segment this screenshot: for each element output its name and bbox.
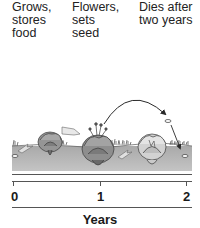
tick-0 xyxy=(13,181,14,186)
growth-arrow-icon xyxy=(62,127,80,135)
caption-line: two years xyxy=(139,14,193,27)
life-cycle-illustration xyxy=(0,80,200,175)
tick-2 xyxy=(186,181,187,186)
axis-title: Years xyxy=(0,212,200,227)
seed-icon xyxy=(182,155,188,158)
seed-dispersal-arc-arrow xyxy=(104,100,165,124)
stage-caption-dies: Dies after two years xyxy=(139,1,193,27)
axis-divider-bottom xyxy=(12,207,192,208)
tick-label-0: 0 xyxy=(11,189,18,204)
axis-line xyxy=(12,181,192,182)
stage-caption-grows: Grows, stores food xyxy=(12,1,52,40)
seed-icon xyxy=(165,120,171,123)
seed-icon xyxy=(12,155,18,158)
axis-divider-top xyxy=(12,174,192,175)
stage-caption-flowers: Flowers, sets seed xyxy=(72,1,119,40)
tick-label-1: 1 xyxy=(97,189,104,204)
flowering-plant-icon xyxy=(82,123,114,165)
caption-line: seed xyxy=(72,27,119,40)
tick-1 xyxy=(100,181,101,186)
tick-label-2: 2 xyxy=(183,189,190,204)
caption-line: food xyxy=(12,27,52,40)
